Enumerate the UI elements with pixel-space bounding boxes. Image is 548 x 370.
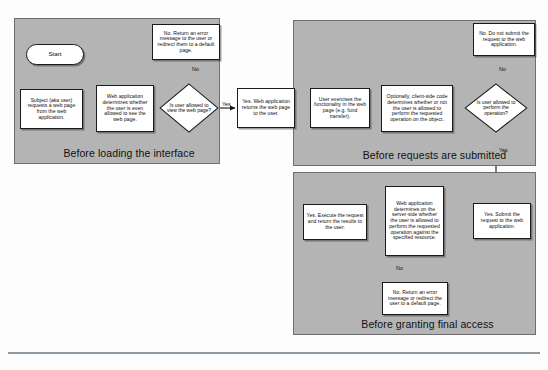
node-server-side-check: Web application determines on the server…: [385, 186, 444, 256]
decision-is-user-allowed-to-perform: Is user allowed to perform the operation…: [464, 83, 528, 133]
node-webapp-determines-view-label: Web application determines whether the u…: [97, 93, 153, 124]
decision-is-user-allowed-to-perform-label: Is user allowed to perform the operation…: [472, 100, 519, 117]
edge-label-no-server: No: [396, 265, 403, 271]
node-yes-execute-request: Yes. Execute the request and return the …: [303, 204, 367, 240]
node-no-return-error-default-label: No. Return an error message or redirect …: [383, 289, 447, 308]
page-bottom-rule: [8, 352, 540, 354]
edge-label-no-view: No: [192, 66, 199, 72]
node-yes-submit-request: Yes. Submit the request to the web appli…: [473, 203, 531, 239]
node-user-exercises-functionality-label: User exercises the functionality in the …: [311, 96, 369, 121]
node-client-side-check: Optionally, client-side code determines …: [381, 85, 453, 132]
node-subject-requests-page: Subject (aka user) requests a web page f…: [20, 89, 83, 129]
node-user-exercises-functionality: User exercises the functionality in the …: [310, 88, 370, 128]
decision-is-user-allowed-to-view: Is user allowed to view the web page?: [159, 83, 219, 133]
node-yes-execute-request-label: Yes. Execute the request and return the …: [304, 212, 366, 231]
edge-label-no-perform: No: [499, 66, 506, 72]
node-start-label: Start: [46, 50, 63, 59]
edge-label-yes-view: Yes: [222, 101, 231, 107]
node-yes-submit-request-label: Yes. Submit the request to the web appli…: [474, 211, 530, 230]
node-no-return-error-default: No. Return an error message or redirect …: [382, 282, 448, 315]
node-webapp-determines-view: Web application determines whether the u…: [96, 85, 154, 132]
node-yes-return-web-page-label: Yes. Web application returns the web pag…: [238, 98, 294, 117]
node-no-return-error-redirect-label: No. Return an error message to the user …: [153, 30, 219, 55]
node-client-side-check-label: Optionally, client-side code determines …: [382, 93, 452, 124]
node-yes-return-web-page: Yes. Web application returns the web pag…: [237, 88, 295, 128]
node-no-return-error-redirect: No. Return an error message to the user …: [152, 24, 220, 60]
edge-label-yes-perform: Yes: [499, 147, 508, 153]
node-no-do-not-submit: No. Do not submit the request to the web…: [473, 23, 535, 56]
panel-title-before-final-access: Before granting final access: [294, 318, 535, 330]
panel-title-before-loading: Before loading the interface: [15, 147, 219, 159]
node-no-do-not-submit-label: No. Do not submit the request to the web…: [474, 30, 534, 49]
node-subject-requests-page-label: Subject (aka user) requests a web page f…: [21, 97, 82, 122]
node-start: Start: [26, 44, 84, 65]
node-server-side-check-label: Web application determines on the server…: [386, 200, 443, 242]
decision-is-user-allowed-to-view-label: Is user allowed to view the web page?: [167, 103, 211, 114]
